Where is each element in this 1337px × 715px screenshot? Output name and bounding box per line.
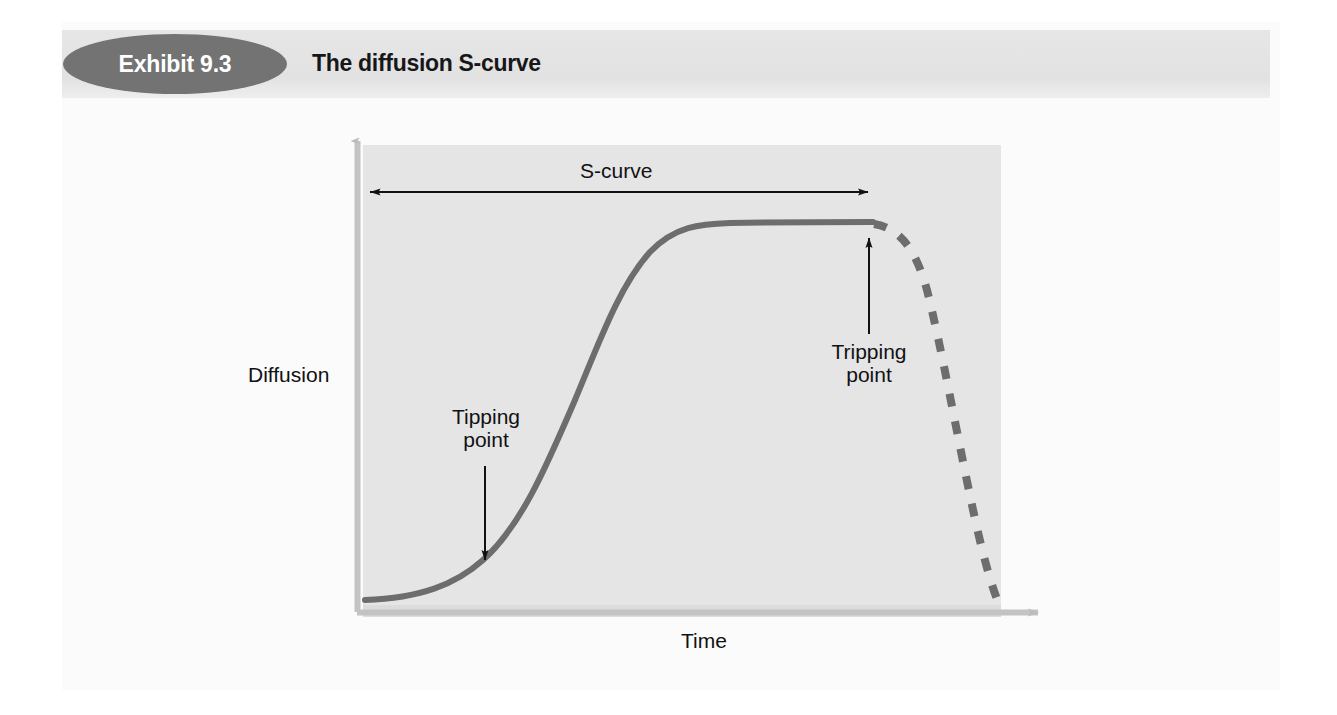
plot-background [363,145,1001,617]
exhibit-figure: Exhibit 9.3 The diffusion S-curve [0,0,1337,715]
diffusion-s-curve-chart [0,0,1337,715]
